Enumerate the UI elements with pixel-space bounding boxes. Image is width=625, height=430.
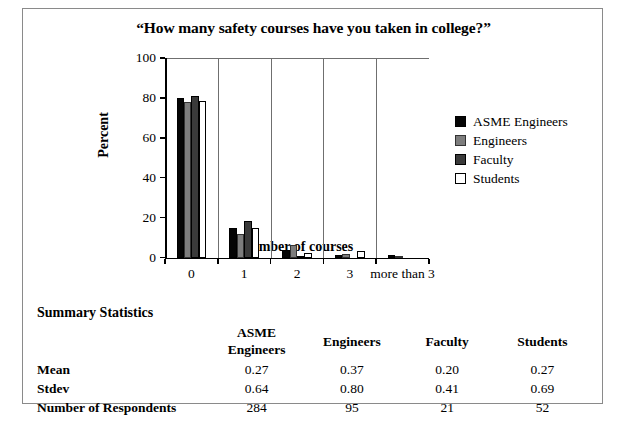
x-tick-mark [270, 259, 272, 264]
y-tick-label: 40 [143, 170, 157, 186]
summary-statistics-table: ASME EngineersEngineersFacultyStudents M… [37, 323, 590, 417]
plot-area: 020406080100 0123more than 3 [165, 58, 429, 259]
legend-swatch-icon [455, 173, 466, 184]
legend-swatch-icon [455, 154, 466, 165]
x-tick-label: more than 3 [370, 266, 434, 282]
category-gridline [376, 58, 377, 258]
x-tick-label: 1 [241, 266, 248, 282]
table-cell-value: 95 [304, 398, 399, 417]
legend-label: Students [473, 171, 520, 187]
legend-swatch-icon [455, 135, 466, 146]
table-body: Mean0.270.370.200.27Stdev0.640.800.410.6… [37, 360, 590, 418]
bar [177, 98, 184, 258]
table-cell-value: 21 [400, 398, 495, 417]
bar [199, 101, 206, 258]
bar [252, 228, 259, 258]
table-column-header: Engineers [304, 323, 399, 360]
summary-statistics-title: Summary Statistics [37, 305, 590, 321]
table-header-row: ASME EngineersEngineersFacultyStudents [37, 323, 590, 360]
table-cell-value: 0.41 [400, 379, 495, 398]
x-tick-mark [164, 259, 166, 264]
table-column-header: Students [495, 323, 590, 360]
category-gridline [271, 58, 272, 258]
bar [244, 221, 251, 258]
bar [335, 255, 342, 258]
legend-item: Students [455, 169, 568, 188]
table-row-label: Number of Respondents [37, 398, 209, 417]
table-cell-value: 284 [209, 398, 304, 417]
table-cell-value: 0.37 [304, 360, 399, 379]
category-gridline [218, 58, 219, 258]
x-tick-mark [323, 259, 325, 264]
plot-top-border [165, 58, 429, 59]
bar [342, 254, 349, 258]
table-column-header: Faculty [400, 323, 495, 360]
chart-title: “How many safety courses have you taken … [23, 19, 604, 37]
x-tick-label: 0 [188, 266, 195, 282]
chart-legend: ASME EngineersEngineersFacultyStudents [455, 112, 568, 188]
x-axis-line [165, 258, 429, 260]
table-cell-value: 0.69 [495, 379, 590, 398]
table-row: Mean0.270.370.200.27 [37, 360, 590, 379]
x-tick-label: 2 [294, 266, 301, 282]
bar [395, 256, 402, 258]
y-tick-mark [160, 177, 165, 179]
bar [304, 253, 311, 258]
bar [229, 228, 236, 258]
y-tick-mark [160, 97, 165, 99]
x-tick-label: 3 [346, 266, 353, 282]
y-tick-label: 60 [143, 130, 157, 146]
y-axis-title: Percent [96, 112, 112, 158]
table-cell-value: 52 [495, 398, 590, 417]
y-tick-label: 80 [143, 90, 157, 106]
legend-item: Engineers [455, 131, 568, 150]
table-row: Number of Respondents284952152 [37, 398, 590, 417]
bar [237, 234, 244, 258]
table-cell-value: 0.27 [495, 360, 590, 379]
y-tick-label: 100 [136, 50, 156, 66]
table-row-label: Mean [37, 360, 209, 379]
bar [184, 102, 191, 258]
bar [388, 255, 395, 258]
x-tick-mark [428, 259, 430, 264]
bar [282, 250, 289, 258]
x-tick-mark [375, 259, 377, 264]
table-row-label: Stdev [37, 379, 209, 398]
y-tick-label: 20 [143, 210, 157, 226]
y-tick-mark [160, 217, 165, 219]
bar [290, 245, 297, 258]
legend-label: ASME Engineers [473, 114, 568, 130]
legend-item: ASME Engineers [455, 112, 568, 131]
y-tick-mark [160, 137, 165, 139]
x-tick-mark [217, 259, 219, 264]
table-column-header: ASME Engineers [209, 323, 304, 360]
y-tick-label: 0 [149, 250, 156, 266]
legend-swatch-icon [455, 116, 466, 127]
table-cell-value: 0.64 [209, 379, 304, 398]
y-axis-line [165, 58, 167, 259]
summary-statistics-section: Summary Statistics ASME EngineersEnginee… [37, 305, 590, 417]
legend-label: Faculty [473, 152, 514, 168]
table-cell-value: 0.27 [209, 360, 304, 379]
category-gridline [323, 58, 324, 258]
legend-label: Engineers [473, 133, 527, 149]
legend-item: Faculty [455, 150, 568, 169]
table-cell-value: 0.80 [304, 379, 399, 398]
table-row: Stdev0.640.800.410.69 [37, 379, 590, 398]
bar [191, 96, 198, 258]
table-cell-value: 0.20 [400, 360, 495, 379]
y-tick-mark [160, 57, 165, 59]
bar [297, 256, 304, 258]
bar [357, 251, 364, 258]
table-corner-cell [37, 323, 209, 360]
figure-panel: “How many safety courses have you taken … [22, 8, 603, 404]
